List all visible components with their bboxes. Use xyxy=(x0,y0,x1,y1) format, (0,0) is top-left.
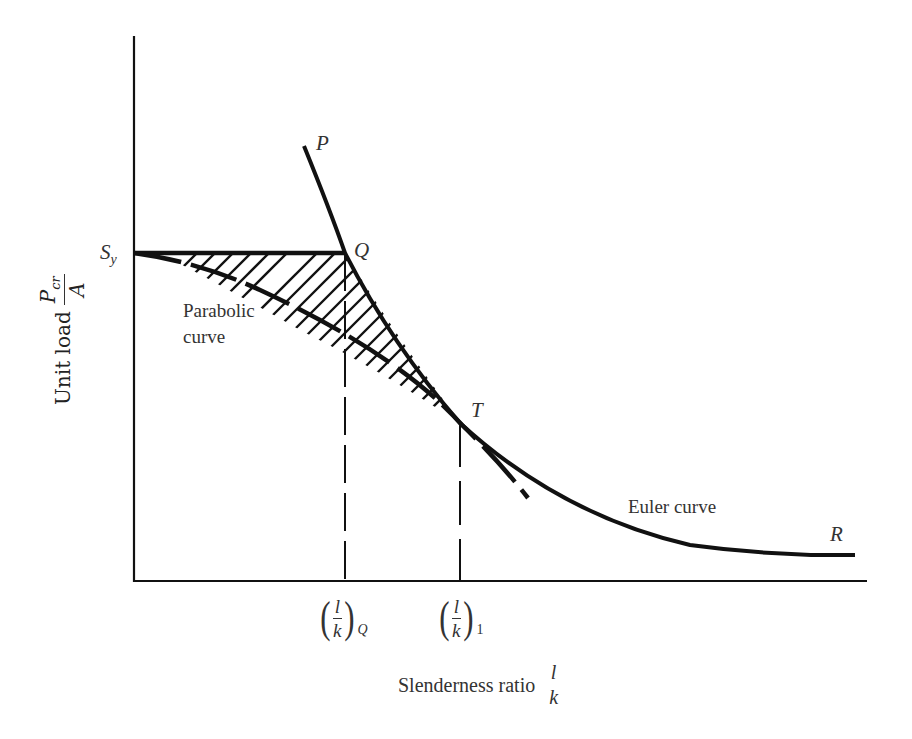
tick-q-sub: Q xyxy=(358,622,368,638)
y-frac-num: P xyxy=(36,290,60,303)
sy-main: S xyxy=(100,240,111,264)
x-axis-label-text: Slenderness ratio xyxy=(398,674,535,697)
y-frac-den: A xyxy=(65,283,87,297)
tick-1-frac: l k xyxy=(452,597,461,640)
tick-1-num: l xyxy=(452,597,461,619)
point-t-label: T xyxy=(471,398,483,423)
paren-right: ) xyxy=(344,596,354,640)
x-ratio-den: k xyxy=(549,685,558,710)
y-axis-label-text: Unit load xyxy=(51,311,75,405)
paren-left: ( xyxy=(320,596,330,640)
tick-1-den: k xyxy=(452,619,460,640)
x-tick-q: ( l k ) Q xyxy=(318,596,368,640)
y-frac-sub: cr xyxy=(48,276,63,290)
x-axis-ratio: l k xyxy=(549,660,558,710)
euler-curve-label: Euler curve xyxy=(628,496,716,518)
tick-q-den: k xyxy=(333,619,341,640)
point-r-label: R xyxy=(830,522,843,547)
parabolic-label-line1: Parabolic xyxy=(183,298,255,324)
paren-right: ) xyxy=(463,596,473,640)
y-axis-label: Unit load Pcr A xyxy=(38,274,87,405)
y-axis-fraction: Pcr A xyxy=(38,274,87,305)
parabolic-curve-label: Parabolic curve xyxy=(183,298,255,350)
point-p-label: P xyxy=(316,131,329,156)
tick-1-sub: 1 xyxy=(477,622,484,638)
parabolic-label-line2: curve xyxy=(183,324,255,350)
x-axis-label: Slenderness ratio l k xyxy=(398,660,558,710)
parabolic-curve xyxy=(134,253,528,498)
point-q-label: Q xyxy=(354,238,369,263)
paren-left: ( xyxy=(439,596,449,640)
sy-sub: y xyxy=(111,252,117,267)
x-ratio-num: l xyxy=(551,660,557,685)
euler-curve xyxy=(304,146,855,555)
tick-q-frac: l k xyxy=(333,597,342,640)
tick-q-num: l xyxy=(333,597,342,619)
sy-label: Sy xyxy=(100,240,117,268)
x-tick-1: ( l k ) 1 xyxy=(437,596,484,640)
